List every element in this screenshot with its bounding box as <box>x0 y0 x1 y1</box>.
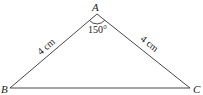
vertex-label-b: B <box>1 83 8 95</box>
vertex-label-a: A <box>91 1 99 13</box>
side-ab <box>10 14 97 88</box>
triangle-figure: A B C 150° 4 cm 4 cm <box>0 0 203 95</box>
side-label-ac: 4 cm <box>138 33 160 54</box>
side-label-ab: 4 cm <box>35 36 57 57</box>
vertex-label-c: C <box>193 83 201 95</box>
angle-label-a: 150° <box>88 24 107 35</box>
triangle-diagram: A B C 150° 4 cm 4 cm <box>0 0 203 95</box>
side-ac <box>97 14 190 88</box>
